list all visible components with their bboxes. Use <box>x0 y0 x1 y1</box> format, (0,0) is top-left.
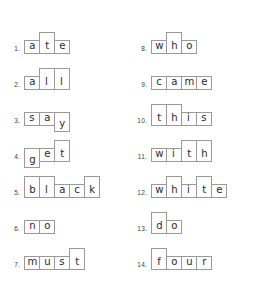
word-boxes: who <box>151 30 196 54</box>
letter-box[interactable]: t <box>181 140 197 162</box>
letter-glyph: b <box>29 184 35 197</box>
letter-box[interactable]: e <box>196 76 212 90</box>
letter-glyph: t <box>75 256 79 269</box>
letter-glyph: l <box>61 76 64 89</box>
letter-box[interactable]: u <box>181 256 197 270</box>
letter-box[interactable]: a <box>24 40 40 54</box>
item-number: 11. <box>131 154 151 163</box>
letter-glyph: a <box>29 40 35 53</box>
letter-box[interactable]: l <box>54 68 70 90</box>
letter-box[interactable]: l <box>39 68 55 90</box>
letter-box[interactable]: y <box>54 112 70 132</box>
item-number: 7. <box>4 262 24 271</box>
item-number: 5. <box>4 190 24 199</box>
letter-box[interactable]: e <box>54 40 70 54</box>
letter-glyph: c <box>156 76 162 89</box>
letter-box[interactable]: h <box>196 140 212 162</box>
word-row: 12.white <box>131 162 258 198</box>
letter-box[interactable]: e <box>211 184 227 198</box>
letter-glyph: e <box>201 76 207 89</box>
item-number: 6. <box>4 226 24 235</box>
letter-box[interactable]: b <box>24 176 40 198</box>
letter-glyph: m <box>184 76 194 89</box>
letter-box[interactable]: s <box>196 112 212 126</box>
right-column: 8.who9.came10.this11.with12.white13.do14… <box>131 18 258 299</box>
item-number: 9. <box>131 82 151 91</box>
letter-glyph: m <box>27 256 37 269</box>
letter-glyph: l <box>46 184 49 197</box>
letter-glyph: o <box>44 220 50 233</box>
letter-box[interactable]: m <box>181 76 197 90</box>
letter-glyph: c <box>74 184 80 197</box>
letter-box[interactable]: l <box>39 176 55 198</box>
item-number: 8. <box>131 46 151 55</box>
letter-box[interactable]: c <box>151 76 167 90</box>
letter-glyph: a <box>59 184 65 197</box>
letter-box[interactable]: o <box>39 220 55 234</box>
word-boxes: do <box>151 210 181 234</box>
letter-box[interactable]: h <box>166 176 182 198</box>
word-boxes: came <box>151 66 211 90</box>
letter-box[interactable]: c <box>69 184 85 198</box>
letter-box[interactable]: a <box>54 184 70 198</box>
letter-box[interactable]: i <box>166 148 182 162</box>
letter-box[interactable]: h <box>166 104 182 126</box>
letter-box[interactable]: w <box>151 148 167 162</box>
letter-glyph: a <box>44 112 50 125</box>
letter-box[interactable]: t <box>39 32 55 54</box>
letter-glyph: o <box>171 220 177 233</box>
letter-glyph: s <box>59 256 64 269</box>
letter-glyph: f <box>157 256 161 269</box>
letter-box[interactable]: t <box>151 104 167 126</box>
letter-box[interactable]: m <box>24 256 40 270</box>
letter-glyph: e <box>44 148 50 161</box>
letter-box[interactable]: a <box>39 112 55 126</box>
left-column: 1.ate2.all3.say4.get5.black6.no7.must <box>4 18 131 299</box>
letter-box[interactable]: g <box>24 148 40 168</box>
word-row: 7.must <box>4 234 131 270</box>
letter-box[interactable]: n <box>24 220 40 234</box>
letter-glyph: w <box>155 184 163 197</box>
item-number: 1. <box>4 46 24 55</box>
word-boxes: black <box>24 174 99 198</box>
letter-box[interactable]: t <box>69 248 85 270</box>
letter-box[interactable]: d <box>151 212 167 234</box>
word-row: 8.who <box>131 18 258 54</box>
word-boxes: no <box>24 210 54 234</box>
letter-box[interactable]: t <box>196 176 212 198</box>
word-boxes: ate <box>24 30 69 54</box>
letter-glyph: g <box>29 154 35 167</box>
letter-glyph: e <box>59 40 65 53</box>
letter-glyph: y <box>59 118 65 131</box>
letter-box[interactable]: i <box>181 184 197 198</box>
letter-box[interactable]: o <box>166 220 182 234</box>
letter-box[interactable]: t <box>54 140 70 162</box>
letter-glyph: d <box>156 220 162 233</box>
letter-glyph: l <box>46 76 49 89</box>
letter-box[interactable]: o <box>181 40 197 54</box>
item-number: 3. <box>4 118 24 127</box>
letter-box[interactable]: o <box>166 256 182 270</box>
letter-glyph: a <box>171 76 177 89</box>
letter-box[interactable]: u <box>39 256 55 270</box>
item-number: 2. <box>4 82 24 91</box>
letter-box[interactable]: e <box>39 148 55 162</box>
letter-box[interactable]: f <box>151 248 167 270</box>
letter-glyph: i <box>188 184 191 197</box>
word-boxes: all <box>24 66 69 90</box>
letter-box[interactable]: s <box>24 112 40 126</box>
item-number: 12. <box>131 190 151 199</box>
letter-glyph: w <box>155 40 163 53</box>
letter-box[interactable]: h <box>166 32 182 54</box>
letter-box[interactable]: a <box>166 76 182 90</box>
letter-box[interactable]: w <box>151 40 167 54</box>
letter-box[interactable]: r <box>196 256 212 270</box>
letter-box[interactable]: s <box>54 256 70 270</box>
letter-box[interactable]: k <box>84 176 100 198</box>
item-number: 4. <box>4 154 24 163</box>
letter-box[interactable]: w <box>151 184 167 198</box>
letter-glyph: w <box>155 148 163 161</box>
letter-box[interactable]: i <box>181 112 197 126</box>
letter-glyph: s <box>201 112 206 125</box>
letter-box[interactable]: a <box>24 76 40 90</box>
